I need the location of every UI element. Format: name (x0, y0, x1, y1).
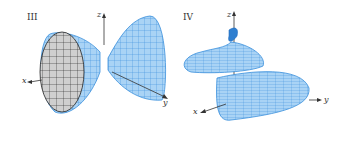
panel-iv: IV z x y (171, 0, 342, 143)
axis-label-z: z (227, 10, 231, 19)
axis-label-z: z (97, 10, 101, 19)
helical-tube-surface (171, 0, 342, 143)
panel-iii: III z x y (0, 0, 171, 143)
axis-label-y: y (163, 98, 168, 107)
hourglass-surface (0, 0, 171, 143)
axis-label-x: x (22, 76, 27, 85)
axis-label-y: y (324, 95, 329, 104)
axis-label-x: x (193, 107, 198, 116)
